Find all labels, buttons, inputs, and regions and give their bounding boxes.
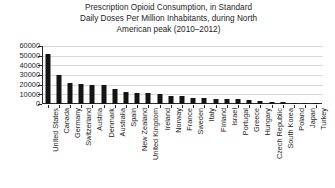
bar-slot	[154, 46, 165, 104]
chart-title-line-3: American peak (2010–2012)	[36, 24, 301, 35]
chart-title-line-1: Prescription Opioid Consumption, in Stan…	[36, 2, 301, 13]
bar-slot	[98, 46, 109, 104]
y-axis-labels: 0100002000030000400005000060000	[0, 0, 40, 188]
bar[interactable]	[157, 94, 162, 104]
x-label-slot: Australia	[109, 108, 120, 188]
bar[interactable]	[235, 99, 240, 104]
y-tick-label: 60000	[4, 42, 40, 49]
x-label-slot: South Korea	[277, 108, 288, 188]
bar-slot	[143, 46, 154, 104]
x-axis-labels: United StatesCanadaGermanySwitzerlandAus…	[42, 108, 322, 188]
bar-slot	[288, 46, 299, 104]
x-label-slot: Finland	[210, 108, 221, 188]
x-label-slot: Austria	[87, 108, 98, 188]
bar[interactable]	[146, 93, 151, 104]
bar-slot	[311, 46, 322, 104]
y-tick-label: 40000	[4, 62, 40, 69]
x-label-slot: Turkey	[311, 108, 322, 188]
bar-slot	[255, 46, 266, 104]
chart-title-line-2: Daily Doses Per Million Inhabitants, dur…	[36, 13, 301, 24]
chart-title: Prescription Opioid Consumption, in Stan…	[36, 2, 301, 36]
bar-slot	[64, 46, 75, 104]
x-label-slot: Israel	[221, 108, 232, 188]
bar[interactable]	[258, 101, 263, 104]
x-label-slot: Canada	[53, 108, 64, 188]
x-label-slot: Portugal	[232, 108, 243, 188]
x-label-slot: Greece	[244, 108, 255, 188]
bar-slot	[300, 46, 311, 104]
bar-slot	[210, 46, 221, 104]
bar-slot	[132, 46, 143, 104]
y-tick-label: 0	[4, 100, 40, 107]
bar-slot	[87, 46, 98, 104]
bar-slot	[165, 46, 176, 104]
bar[interactable]	[135, 93, 140, 104]
x-label-slot: Switzerland	[76, 108, 87, 188]
bar-slot	[277, 46, 288, 104]
bar[interactable]	[90, 85, 95, 104]
bar[interactable]	[202, 98, 207, 104]
bar-slot	[53, 46, 64, 104]
x-tick-label: Turkey	[320, 108, 327, 130]
bar[interactable]	[179, 96, 184, 104]
bar[interactable]	[45, 54, 50, 104]
bar-chart: Prescription Opioid Consumption, in Stan…	[0, 0, 335, 188]
bar[interactable]	[67, 83, 72, 104]
bar[interactable]	[56, 75, 61, 104]
x-label-slot: New Zealand	[132, 108, 143, 188]
y-tick-label: 10000	[4, 91, 40, 98]
bar[interactable]	[191, 98, 196, 104]
x-label-slot: Sweden	[188, 108, 199, 188]
bar[interactable]	[280, 102, 285, 104]
x-label-slot: Czech Republic	[266, 108, 277, 188]
y-tick-label: 20000	[4, 81, 40, 88]
x-label-slot: Denmark	[98, 108, 109, 188]
bar[interactable]	[112, 89, 117, 104]
x-label-slot: Poland	[288, 108, 299, 188]
x-label-slot: Hungary	[255, 108, 266, 188]
bar-slot	[109, 46, 120, 104]
bar-slot	[120, 46, 131, 104]
bar[interactable]	[224, 99, 229, 104]
x-label-slot: Japan	[300, 108, 311, 188]
bar-slot	[188, 46, 199, 104]
bar-series	[42, 46, 322, 104]
bar[interactable]	[79, 84, 84, 104]
bar-slot	[244, 46, 255, 104]
bar[interactable]	[101, 85, 106, 104]
bar[interactable]	[123, 92, 128, 104]
bar-slot	[76, 46, 87, 104]
bar-slot	[266, 46, 277, 104]
bar[interactable]	[213, 99, 218, 104]
x-label-slot: Spain	[120, 108, 131, 188]
bar-slot	[221, 46, 232, 104]
bar[interactable]	[303, 103, 308, 104]
bar-slot	[232, 46, 243, 104]
bar-slot	[42, 46, 53, 104]
x-label-slot: France	[176, 108, 187, 188]
x-label-slot: United Kingdom	[143, 108, 154, 188]
bar-slot	[176, 46, 187, 104]
bar-slot	[199, 46, 210, 104]
bar[interactable]	[291, 103, 296, 104]
x-label-slot: United States	[42, 108, 53, 188]
x-label-slot: Norway	[165, 108, 176, 188]
bar[interactable]	[168, 96, 173, 104]
y-tick-label: 30000	[4, 71, 40, 78]
y-tick-label: 50000	[4, 52, 40, 59]
bar[interactable]	[269, 102, 274, 105]
bar[interactable]	[247, 100, 252, 104]
x-label-slot: Italy	[199, 108, 210, 188]
bar[interactable]	[314, 103, 319, 104]
x-label-slot: Germany	[64, 108, 75, 188]
x-label-slot: Ireland	[154, 108, 165, 188]
